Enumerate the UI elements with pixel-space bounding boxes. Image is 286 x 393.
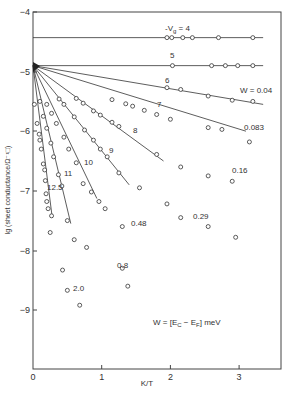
- y-tick-label: −4: [20, 7, 30, 17]
- data-point: [45, 102, 49, 106]
- series-5: [33, 66, 234, 184]
- data-point: [220, 127, 224, 131]
- data-point: [206, 174, 210, 178]
- y-tick-label: −5: [20, 67, 30, 77]
- data-point: [190, 36, 194, 40]
- x-axis: [102, 365, 239, 369]
- w-label-048: 0.48: [131, 219, 147, 228]
- fit-line: [33, 66, 263, 105]
- fit-line: [33, 66, 97, 199]
- data-point: [74, 161, 78, 165]
- data-point: [44, 192, 48, 196]
- data-point: [179, 87, 183, 91]
- data-point: [49, 141, 53, 145]
- data-point: [65, 288, 69, 292]
- data-point: [43, 168, 47, 172]
- y-axis: [33, 12, 37, 310]
- data-point: [72, 115, 76, 119]
- series-label-vg10: 10: [84, 158, 93, 167]
- data-point: [230, 179, 234, 183]
- y-tick-label: −6: [20, 126, 30, 136]
- data-point: [206, 94, 210, 98]
- data-point: [38, 138, 42, 142]
- data-point: [56, 173, 60, 177]
- data-point: [179, 165, 183, 169]
- w-label-0083: 0.083: [244, 123, 265, 132]
- data-point: [81, 101, 85, 105]
- data-point: [41, 114, 45, 118]
- data-point: [103, 207, 107, 211]
- series-label-vg11: 11: [64, 169, 73, 178]
- data-point: [62, 135, 66, 139]
- data-point: [105, 155, 109, 159]
- data-point: [210, 64, 214, 68]
- data-point: [142, 108, 146, 112]
- data-point: [181, 36, 185, 40]
- data-point: [50, 111, 54, 115]
- data-point: [67, 147, 71, 151]
- series-3: [33, 66, 263, 105]
- data-point: [251, 64, 255, 68]
- data-point: [57, 97, 61, 101]
- data-point: [251, 99, 255, 103]
- data-point: [46, 207, 50, 211]
- data-point: [61, 268, 65, 272]
- series-8: [33, 66, 130, 289]
- data-point: [91, 138, 95, 142]
- data-point: [179, 216, 183, 220]
- data-point: [165, 202, 169, 206]
- data-point: [50, 214, 54, 218]
- data-point: [35, 121, 39, 125]
- data-point: [236, 64, 240, 68]
- data-point: [131, 104, 135, 108]
- data-point: [251, 36, 255, 40]
- data-point: [97, 200, 101, 204]
- data-point: [78, 303, 82, 307]
- data-point: [37, 132, 41, 136]
- data-point: [247, 140, 251, 144]
- y-axis-label: lg (sheet conductance/Ω⁻¹□): [4, 146, 12, 235]
- data-point: [91, 109, 95, 113]
- w-label-20: 2.0: [73, 284, 85, 293]
- series-label-vg7: 7: [157, 100, 162, 109]
- series-label-vg125: 12.5: [47, 183, 63, 192]
- conductance-chart: −4 −5 −6 −7 −8 −9 0 1 2 3 K/T lg (sheet …: [0, 0, 286, 393]
- y-tick-label: −7: [20, 186, 30, 196]
- data-point: [170, 64, 174, 68]
- data-point: [45, 200, 49, 204]
- data-point: [155, 152, 159, 156]
- x-axis-label: K/T: [141, 379, 154, 388]
- data-point: [110, 120, 114, 124]
- data-point: [216, 36, 220, 40]
- data-point: [223, 64, 227, 68]
- data-point: [74, 96, 78, 100]
- w-label-004: W = 0.04: [240, 86, 273, 95]
- data-point: [52, 155, 56, 159]
- series-1: [33, 36, 263, 40]
- series-label-vg4: -Vg = 4: [165, 24, 190, 34]
- series-label-vg8: 8: [133, 126, 138, 135]
- data-point: [126, 284, 130, 288]
- data-point: [155, 113, 159, 117]
- data-point: [39, 147, 43, 151]
- data-point: [117, 124, 121, 128]
- data-point: [170, 36, 174, 40]
- series-2: [33, 64, 263, 68]
- data-point: [98, 113, 102, 117]
- data-point: [72, 238, 76, 242]
- data-point: [98, 147, 102, 151]
- w-label-08: 0.8: [117, 261, 129, 270]
- data-point: [83, 128, 87, 132]
- data-point: [38, 99, 42, 103]
- x-tick-label: 3: [237, 372, 242, 382]
- x-tick-label: 2: [168, 372, 173, 382]
- y-tick-label: −8: [20, 246, 30, 256]
- x-tick-label: 1: [99, 372, 104, 382]
- series-label-vg6: 6: [165, 76, 170, 85]
- series-label-vg5: 5: [170, 51, 175, 60]
- data-point: [32, 102, 36, 106]
- data-point: [45, 126, 49, 130]
- data-point: [110, 98, 114, 102]
- x-tick-label: 0: [30, 372, 35, 382]
- data-point: [168, 117, 172, 121]
